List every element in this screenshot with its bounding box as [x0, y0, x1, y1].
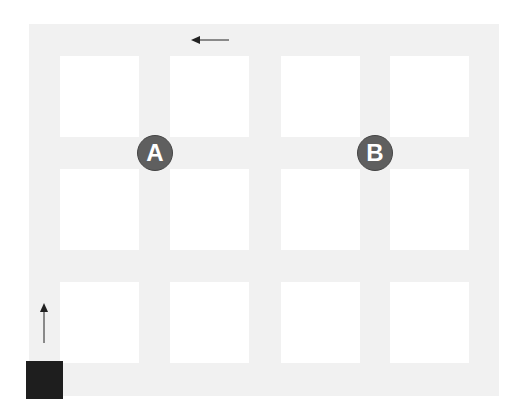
- city-block: [60, 56, 139, 137]
- arrow-left-icon: [191, 35, 229, 45]
- city-block: [170, 282, 249, 363]
- city-block: [281, 169, 360, 250]
- arrow-up-icon: [38, 303, 50, 343]
- city-block: [170, 169, 249, 250]
- marker-a: A: [137, 135, 173, 171]
- start-square: [26, 361, 63, 399]
- city-block: [60, 282, 139, 363]
- marker-b: B: [357, 135, 393, 171]
- city-block: [281, 282, 360, 363]
- city-block: [390, 169, 469, 250]
- city-block: [170, 56, 249, 137]
- city-block: [390, 56, 469, 137]
- city-block: [390, 282, 469, 363]
- city-block: [281, 56, 360, 137]
- city-block: [60, 169, 139, 250]
